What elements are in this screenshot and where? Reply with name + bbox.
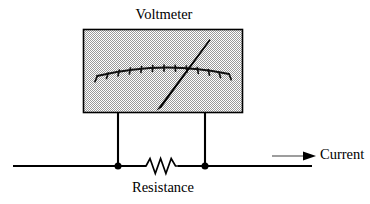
circuit-diagram-canvas [0,0,370,204]
voltmeter-box [84,30,243,113]
resistor-symbol [146,159,178,174]
junction-node-right [202,163,209,170]
current-label: Current [320,147,364,162]
resistance-label: Resistance [88,180,238,195]
voltmeter-circuit-figure: Voltmeter Resistance Current [0,0,370,204]
current-arrow-head [303,152,316,161]
junction-node-left [115,163,122,170]
voltmeter-label: Voltmeter [0,7,328,22]
